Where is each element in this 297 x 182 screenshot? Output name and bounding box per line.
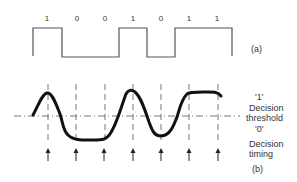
arrow-up-icon: [46, 148, 51, 161]
received-analog-waveform: [33, 90, 221, 140]
bit-label: 0: [75, 14, 80, 23]
timing-label-line1: Decision: [249, 139, 284, 149]
arrow-up-icon: [74, 148, 79, 161]
binary-decision-diagram: 1 0 0 1 0 1 1 (a) '1' Decision threshold…: [0, 0, 297, 182]
threshold-label-line1: Decision: [249, 103, 284, 113]
bit-label: 1: [215, 14, 220, 23]
bit-label: 1: [131, 14, 136, 23]
bit-label: 0: [159, 14, 164, 23]
decision-timing-arrows: [46, 148, 221, 161]
bit-label: 1: [45, 14, 50, 23]
arrow-up-icon: [216, 148, 221, 161]
bit-label: 0: [103, 14, 108, 23]
bit-label: 1: [187, 14, 192, 23]
arrow-up-icon: [159, 148, 164, 161]
threshold-label-line2: threshold: [246, 113, 283, 123]
timing-label-line2: timing: [249, 149, 273, 159]
arrow-up-icon: [131, 148, 136, 161]
level-one-label: '1': [255, 92, 264, 102]
bit-labels: 1 0 0 1 0 1 1: [45, 14, 220, 23]
digital-square-wave: [33, 28, 232, 57]
arrow-up-icon: [102, 148, 107, 161]
panel-a-label: (a): [251, 44, 262, 54]
level-zero-label: '0': [255, 124, 264, 134]
panel-b-label: (b): [252, 164, 263, 174]
arrow-up-icon: [187, 148, 192, 161]
